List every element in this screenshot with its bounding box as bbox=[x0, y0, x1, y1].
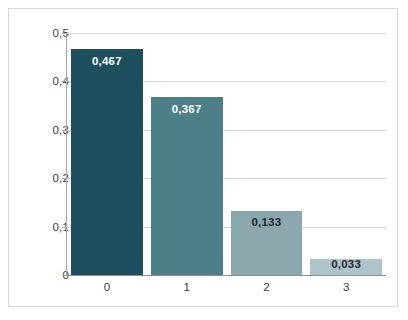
bar-value-label: 0,133 bbox=[231, 216, 303, 228]
x-axis-tick-label: 1 bbox=[147, 281, 227, 293]
plot-area: 0,467 0,367 0,133 0,033 bbox=[67, 33, 386, 275]
bar-slot: 0,033 bbox=[306, 33, 386, 275]
bar-value-label: 0,467 bbox=[71, 55, 143, 67]
bar-category-1[interactable]: 0,367 bbox=[151, 97, 223, 275]
x-axis-tick-label: 2 bbox=[227, 281, 307, 293]
x-axis-tick-label: 0 bbox=[67, 281, 147, 293]
bar-category-2[interactable]: 0,133 bbox=[231, 211, 303, 275]
bar-value-label: 0,033 bbox=[310, 258, 382, 270]
x-axis-tick-label: 3 bbox=[306, 281, 386, 293]
chart-frame: 0,5 0,4 0,3 0,2 0,1 0 bbox=[8, 8, 398, 307]
bar-slot: 0,467 bbox=[67, 33, 147, 275]
bar-value-label: 0,367 bbox=[151, 103, 223, 115]
bar-slot: 0,133 bbox=[227, 33, 307, 275]
x-axis-line bbox=[66, 275, 386, 276]
bar-series: 0,467 0,367 0,133 0,033 bbox=[67, 33, 386, 275]
bar-slot: 0,367 bbox=[147, 33, 227, 275]
bar-category-0[interactable]: 0,467 bbox=[71, 49, 143, 275]
bar-category-3[interactable]: 0,033 bbox=[310, 259, 382, 275]
chart-plot-wrapper: 0,5 0,4 0,3 0,2 0,1 0 bbox=[9, 9, 399, 308]
